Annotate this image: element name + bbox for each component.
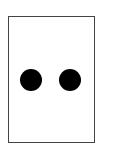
pip-card (8, 16, 95, 143)
pip-dot-2 (59, 69, 81, 91)
pip-dot-1 (20, 69, 42, 91)
